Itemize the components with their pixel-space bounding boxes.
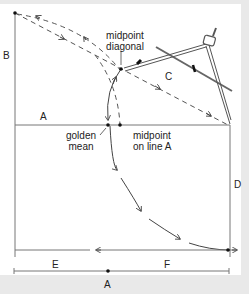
- label-midpoint-diagonal: midpoint diagonal: [103, 30, 147, 52]
- diagram-frame: B A C D E F A midpoint diagonal golden m…: [0, 0, 249, 294]
- label-d: D: [234, 179, 241, 190]
- arc-to-golden-mean: [108, 69, 121, 120]
- label-a-line: A: [40, 111, 47, 122]
- label-golden-mean-line1: golden: [63, 130, 99, 141]
- label-b: B: [3, 50, 10, 61]
- sweep-arc-4: [189, 243, 230, 250]
- sweep-arc-3: [149, 219, 180, 239]
- label-c: C: [165, 71, 172, 82]
- midpoint-line-a-point: [118, 123, 122, 127]
- corner-point: [13, 11, 17, 15]
- label-golden-mean: golden mean: [63, 130, 99, 152]
- sweep-arc-2: [121, 178, 141, 211]
- label-f: F: [164, 259, 170, 270]
- label-midpoint-diagonal-line1: midpoint: [103, 30, 147, 41]
- golden-mean-point: [106, 123, 110, 127]
- label-midpoint-line-a: midpoint on line A: [133, 130, 183, 152]
- sweep-arc-1: [110, 126, 117, 170]
- label-midpoint-line-a-line1: midpoint: [133, 130, 183, 141]
- label-midpoint-line-a-line2: on line A: [133, 141, 183, 152]
- midpoint-diagonal-point: [119, 67, 123, 71]
- dimension-midpoint: [106, 269, 110, 273]
- label-midpoint-diagonal-line2: diagonal: [103, 41, 147, 52]
- label-e: E: [52, 259, 59, 270]
- label-golden-mean-line2: mean: [63, 141, 99, 152]
- end-point: [226, 248, 230, 252]
- label-a-bottom: A: [104, 279, 111, 290]
